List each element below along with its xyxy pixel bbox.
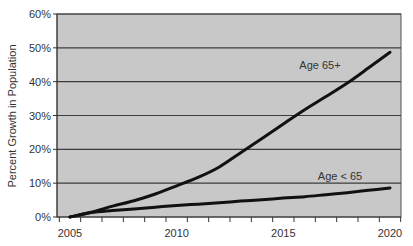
x-tick-label: 2010 (164, 227, 188, 239)
x-tick-label: 2005 (58, 227, 82, 239)
x-axis: 2005201020152020 (57, 217, 402, 239)
x-tick-label: 2020 (378, 227, 402, 239)
x-tick-label: 2015 (271, 227, 295, 239)
line-chart: 0%10%20%30%40%50%60% 2005201020152020 Ag… (0, 0, 413, 246)
y-tick-label: 30% (29, 110, 51, 122)
y-tick-label: 40% (29, 76, 51, 88)
y-tick-label: 20% (29, 143, 51, 155)
y-tick-label: 60% (29, 8, 51, 20)
y-axis-title: Percent Growth in Population (6, 44, 18, 187)
label-age-under-65: Age < 65 (318, 170, 362, 182)
label-age-65-plus: Age 65+ (299, 59, 340, 71)
y-tick-label: 50% (29, 42, 51, 54)
y-tick-label: 10% (29, 177, 51, 189)
y-axis: 0%10%20%30%40%50%60% (29, 8, 57, 223)
y-tick-label: 0% (35, 211, 51, 223)
